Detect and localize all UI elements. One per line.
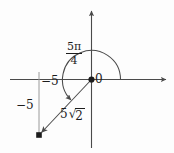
angle-numerator: 5π: [66, 41, 82, 53]
radicand: 2: [75, 108, 85, 122]
radical-expression: √ 2: [69, 108, 85, 122]
y-intercept-label: −5: [16, 99, 34, 111]
x-intercept-label: −5: [41, 75, 59, 87]
diagram-canvas: [0, 0, 174, 153]
angle-label: 5π 4: [66, 41, 82, 66]
radius-label: 5 √ 2: [60, 108, 85, 122]
terminal-point: [36, 132, 42, 138]
origin-label: 0: [95, 73, 103, 85]
coordinate-diagram: 0 −5 −5 5π 4 5 √ 2: [0, 0, 174, 153]
angle-denominator: 4: [66, 54, 82, 66]
radius-coefficient: 5: [60, 108, 68, 120]
origin-point: [88, 76, 94, 82]
